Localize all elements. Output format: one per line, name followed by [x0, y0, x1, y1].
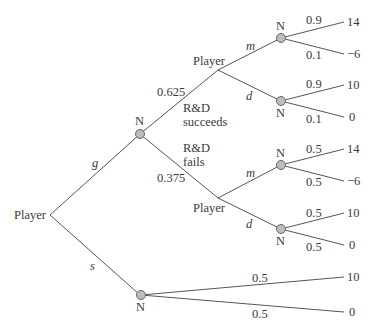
success-action-d: d	[246, 89, 253, 103]
payoff: 0	[349, 238, 355, 252]
prob-label: 0.9	[306, 13, 322, 27]
chance-node-fail-m	[277, 161, 286, 170]
prob-label: 0.5	[306, 142, 322, 156]
edge-terminal	[141, 277, 344, 295]
action-g-label: g	[92, 156, 98, 170]
payoff: 14	[347, 15, 360, 29]
prob-label: 0.5	[252, 307, 268, 321]
prob-rd-fail: 0.375	[157, 171, 185, 185]
rd-success-label-1: R&D	[183, 101, 210, 115]
chance-node-success-m	[277, 34, 286, 43]
chance-nodes	[136, 34, 286, 300]
game-tree: Player g s N 0.625 R&D succeeds R&D fail…	[0, 0, 375, 335]
payoff: 0	[349, 110, 355, 124]
chance-label-success-m: N	[276, 19, 285, 33]
payoff: 10	[347, 78, 360, 92]
success-action-m: m	[246, 39, 255, 53]
prob-rd-success: 0.625	[157, 85, 185, 99]
edge-terminal	[141, 295, 344, 312]
rd-success-label-2: succeeds	[183, 115, 228, 129]
fail-player-label: Player	[193, 201, 226, 215]
rd-fail-label-2: fails	[183, 155, 205, 169]
fail-action-d: d	[246, 217, 253, 231]
payoff: 0	[349, 305, 355, 319]
chance-node-success-d	[277, 97, 286, 106]
edge-g	[50, 134, 140, 215]
success-player-label: Player	[193, 54, 226, 68]
payoff: 10	[347, 206, 360, 220]
chance-label-rd: N	[135, 114, 144, 128]
payoff: 14	[347, 142, 360, 156]
chance-label-fail-m: N	[276, 146, 285, 160]
rd-fail-label-1: R&D	[183, 141, 210, 155]
edge-s	[50, 215, 140, 295]
chance-node-s	[137, 291, 146, 300]
prob-label: 0.5	[306, 240, 322, 254]
prob-label: 0.5	[306, 206, 322, 220]
payoff: −6	[347, 47, 360, 61]
prob-label: 0.9	[306, 77, 322, 91]
fail-action-m: m	[246, 166, 255, 180]
chance-label-success-d: N	[276, 106, 285, 120]
chance-label-s: N	[136, 300, 145, 314]
payoff: 10	[347, 270, 360, 284]
root-player-label: Player	[14, 208, 47, 222]
prob-label: 0.1	[306, 48, 322, 62]
payoff: −6	[347, 174, 360, 188]
chance-node-fail-d	[277, 225, 286, 234]
chance-node-rd	[136, 130, 145, 139]
action-s-label: s	[90, 259, 95, 273]
prob-label: 0.1	[306, 112, 322, 126]
prob-label: 0.5	[306, 175, 322, 189]
chance-label-fail-d: N	[276, 234, 285, 248]
prob-label: 0.5	[252, 271, 268, 285]
